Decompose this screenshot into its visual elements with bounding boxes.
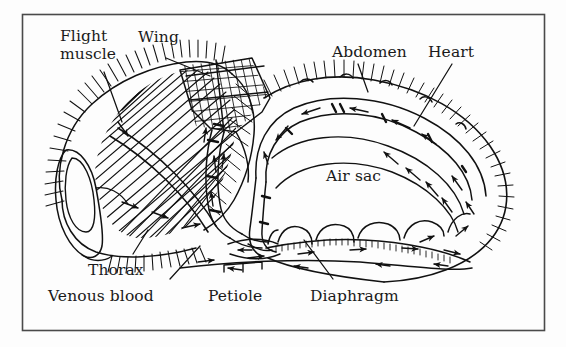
label-abdomen: Abdomen [332, 43, 407, 61]
label-petiole: Petiole [208, 287, 262, 305]
insect-circulation-figure: Flight muscle Wing Abdomen Heart Air sac… [0, 0, 566, 347]
label-flight-muscle: Flight muscle [60, 28, 116, 64]
label-flight-muscle-line2: muscle [60, 46, 116, 64]
label-thorax: Thorax [88, 261, 144, 279]
label-flight-muscle-line1: Flight [60, 28, 116, 46]
label-wing: Wing [138, 28, 179, 46]
label-heart: Heart [428, 43, 474, 61]
label-air-sac: Air sac [326, 167, 381, 185]
label-venous-blood: Venous blood [48, 287, 154, 305]
label-diaphragm: Diaphragm [310, 287, 399, 305]
